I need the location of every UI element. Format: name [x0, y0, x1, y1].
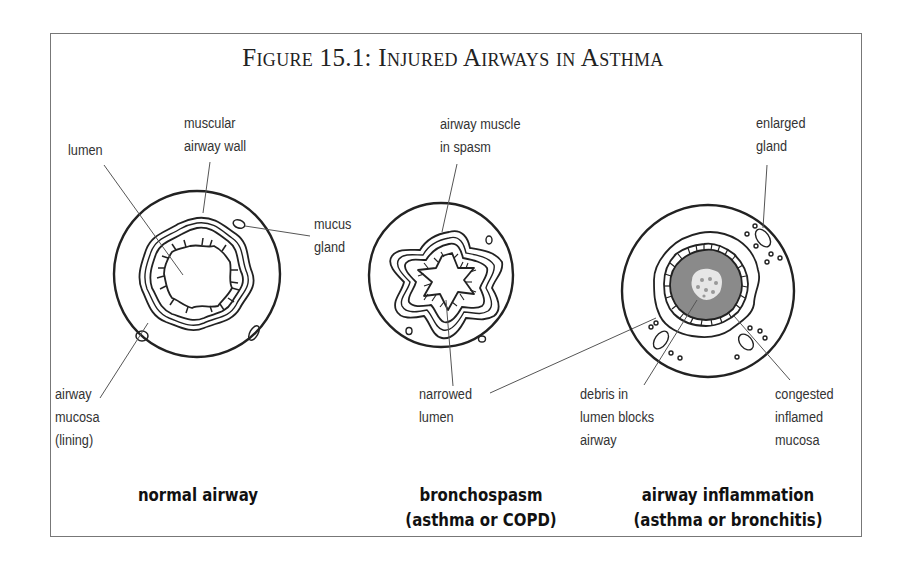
- label-muscle-spasm-line2: in spasm: [440, 135, 491, 158]
- label-mucus-gland-line1: mucus: [314, 212, 351, 235]
- caption-bronchospasm: bronchospasm: [389, 483, 574, 508]
- label-muscle-spasm-line1: airway muscle: [440, 112, 521, 135]
- label-mucosa-line2: mucosa: [55, 405, 100, 428]
- label-congested-line3: mucosa: [775, 428, 820, 451]
- label-narrowed-line2: lumen: [419, 405, 454, 428]
- label-narrowed-line1: narrowed: [419, 382, 472, 405]
- label-debris-line2: lumen blocks: [580, 405, 654, 428]
- label-mucus-gland-line2: gland: [314, 235, 345, 258]
- label-enlarged-gland-line2: gland: [756, 134, 787, 157]
- caption-inflammation-subtitle: (asthma or bronchitis): [622, 508, 833, 533]
- inflammation-illustration: [622, 205, 794, 377]
- normal-airway-illustration: [114, 191, 280, 357]
- caption-inflammation: airway inflammation: [622, 483, 833, 508]
- label-muscular-wall-line2: airway wall: [184, 134, 246, 157]
- label-congested-line1: congested: [775, 382, 834, 405]
- label-debris-line3: airway: [580, 428, 617, 451]
- label-mucosa-line1: airway: [55, 382, 92, 405]
- label-congested-line2: inflamed: [775, 405, 823, 428]
- label-enlarged-gland-line1: enlarged: [756, 111, 805, 134]
- label-lumen: lumen: [68, 138, 103, 161]
- caption-bronchospasm-subtitle: (asthma or COPD): [389, 508, 574, 533]
- label-debris-line1: debris in: [580, 382, 628, 405]
- caption-normal-airway: normal airway: [119, 483, 277, 508]
- label-muscular-wall-line1: muscular: [184, 111, 236, 134]
- normal-leader-lines: [100, 162, 310, 398]
- bronchospasm-illustration: [369, 203, 513, 347]
- label-mucosa-line3: (lining): [55, 428, 93, 451]
